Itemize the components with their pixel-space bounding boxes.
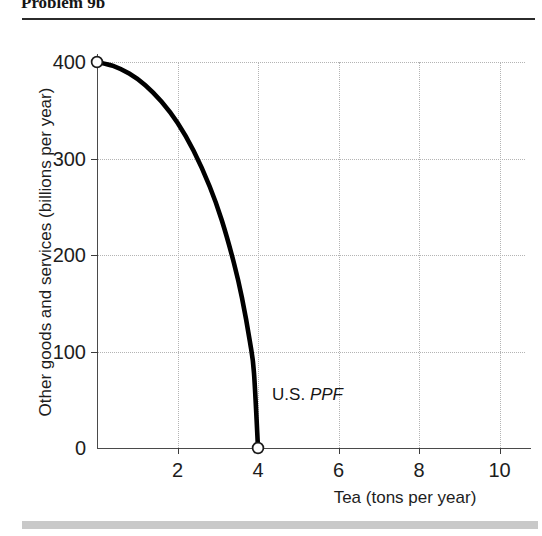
header-rule	[22, 18, 535, 20]
ppf-curve-svg	[0, 24, 542, 519]
marker-x-intercept	[253, 443, 264, 454]
chart-figure: 400 300 200 100 0 2 4 6 8 10 Other goods…	[0, 24, 542, 519]
ppf-curve	[97, 62, 258, 448]
footer-band	[22, 521, 538, 529]
marker-y-intercept	[92, 57, 103, 68]
page-title: Problem 9b	[21, 0, 105, 13]
